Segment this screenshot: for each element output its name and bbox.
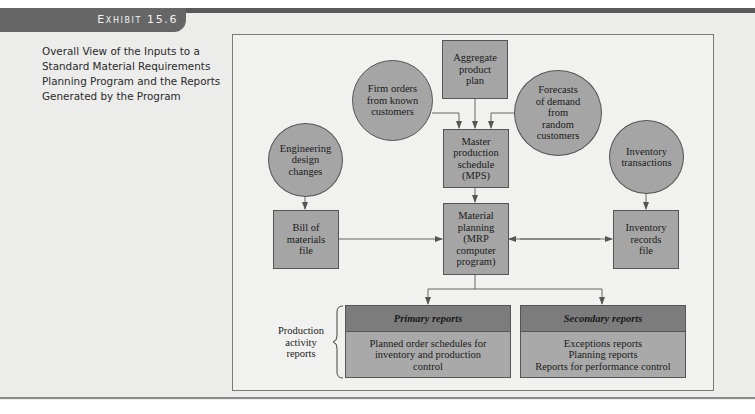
master-production-schedule-label: Master production schedule (MPS) [453, 136, 499, 182]
firm-orders-label: Firm orders from known customers [367, 83, 419, 118]
secondary-reports-box: Secondary reports Exceptions reports Pla… [520, 305, 686, 378]
primary-reports-title: Primary reports [346, 306, 510, 332]
production-activity-reports-label: Production activity reports [268, 325, 334, 360]
engineering-changes-circle: Engineering design changes [268, 123, 343, 197]
mrp-program-label: Material planning (MRP computer program) [456, 210, 496, 268]
inventory-transactions-circle: Inventory transactions [609, 120, 684, 194]
master-production-schedule-box: Master production schedule (MPS) [443, 129, 509, 188]
inventory-records-label: Inventory records file [626, 222, 667, 257]
engineering-changes-label: Engineering design changes [280, 143, 331, 178]
forecasts-circle: Forecasts of demand from random customer… [514, 70, 602, 156]
aggregate-product-plan-box: Aggregate product plan [442, 40, 508, 99]
aggregate-product-plan-label: Aggregate product plan [453, 52, 497, 87]
bill-of-materials-box: Bill of materials file [273, 210, 339, 269]
inventory-transactions-label: Inventory transactions [621, 146, 671, 169]
inventory-records-box: Inventory records file [613, 210, 679, 269]
mrp-program-box: Material planning (MRP computer program) [443, 203, 509, 275]
primary-reports-box: Primary reports Planned order schedules … [345, 305, 511, 378]
bill-of-materials-label: Bill of materials file [287, 222, 325, 257]
secondary-reports-body: Exceptions reports Planning reports Repo… [521, 332, 685, 378]
secondary-reports-title: Secondary reports [521, 306, 685, 332]
firm-orders-circle: Firm orders from known customers [352, 60, 433, 141]
bottom-rule [0, 397, 755, 399]
primary-reports-body: Planned order schedules for inventory an… [346, 332, 510, 378]
forecasts-label: Forecasts of demand from random customer… [536, 84, 581, 142]
